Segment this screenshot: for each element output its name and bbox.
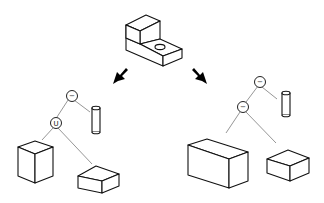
svg-text:−: − xyxy=(69,92,75,100)
left-union-node: U xyxy=(51,118,62,129)
right-small-box xyxy=(267,150,309,181)
left-root-difference-node: − xyxy=(67,91,78,102)
arrow-down-left-icon xyxy=(113,68,128,84)
right-csg-tree: − − xyxy=(188,77,309,189)
arrow-down-right-icon xyxy=(192,68,207,84)
left-csg-tree: − U xyxy=(18,91,119,194)
svg-text:−: − xyxy=(257,78,263,86)
left-tall-box xyxy=(18,141,53,183)
csg-diagram: − U − xyxy=(0,0,324,203)
svg-text:−: − xyxy=(240,103,246,111)
svg-text:U: U xyxy=(53,120,58,128)
right-cylinder xyxy=(282,91,290,117)
left-flat-box xyxy=(78,166,119,193)
source-solid-l-block xyxy=(126,15,182,66)
left-cylinder xyxy=(92,106,100,134)
right-long-box xyxy=(188,139,248,188)
right-inner-difference-node: − xyxy=(238,102,249,113)
right-root-difference-node: − xyxy=(255,77,266,88)
